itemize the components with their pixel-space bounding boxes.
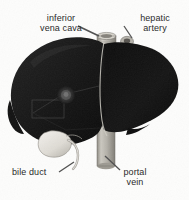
liver-anatomy-figure: inferior vena cava hepatic artery bile d… — [0, 0, 189, 200]
label-inferior-vena-cava: inferior vena cava — [28, 13, 94, 33]
label-portal-vein: portal vein — [114, 167, 156, 187]
label-hepatic-artery: hepatic artery — [127, 13, 183, 33]
label-bile-duct: bile duct — [12, 167, 68, 177]
porta-hepatis — [57, 86, 75, 104]
